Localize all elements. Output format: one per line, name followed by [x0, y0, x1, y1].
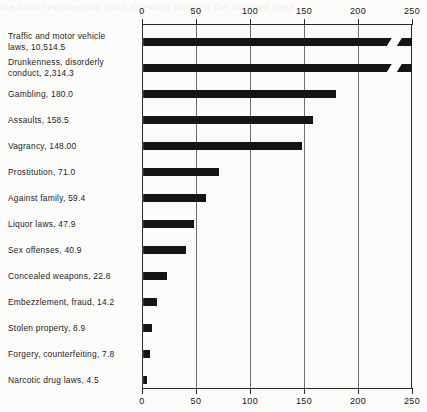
- gridline-100: [250, 24, 251, 388]
- category-label-6: Against family, 59.4: [8, 193, 141, 204]
- bar-1: [142, 64, 412, 72]
- category-label-5: Prostitution, 71.0: [8, 167, 141, 178]
- tick-label-bot-50: 50: [191, 396, 202, 406]
- tick-label-bot-250: 250: [404, 396, 420, 406]
- gridline-200: [358, 24, 359, 388]
- gridline-150: [304, 24, 305, 388]
- bar-2: [142, 90, 336, 98]
- category-label-3: Assaults, 158.5: [8, 115, 141, 126]
- tick-label-top-100: 100: [242, 6, 258, 16]
- tick-bot-250: [412, 389, 413, 394]
- category-label-1: Drunkenness, disorderly conduct, 2,314.3: [8, 57, 141, 78]
- bar-4: [142, 142, 302, 150]
- category-label-7: Liquor laws, 47.9: [8, 219, 141, 230]
- chart-figure: the faint reverse-side print showing thr…: [0, 0, 427, 412]
- bar-3: [142, 116, 313, 124]
- category-label-13: Narcotic drug laws, 4.5: [8, 375, 141, 386]
- gridline-50: [196, 24, 197, 388]
- bar-13: [142, 376, 147, 384]
- category-label-0: Traffic and motor vehicle laws, 10,514.5: [8, 31, 141, 52]
- bar-9: [142, 272, 167, 280]
- tick-bot-100: [250, 389, 251, 394]
- tick-label-top-50: 50: [191, 6, 202, 16]
- bar-7: [142, 220, 194, 228]
- tick-label-bot-150: 150: [296, 396, 312, 406]
- bar-11: [142, 324, 152, 332]
- bar-0: [142, 38, 412, 46]
- tick-label-top-150: 150: [296, 6, 312, 16]
- tick-label-top-250: 250: [404, 6, 420, 16]
- tick-label-bot-0: 0: [139, 396, 144, 406]
- axis-top: [142, 24, 413, 25]
- tick-top-150: [304, 19, 305, 24]
- tick-bot-150: [304, 389, 305, 394]
- category-label-10: Embezzlement, fraud, 14.2: [8, 297, 141, 308]
- category-label-9: Concealed weapons, 22.8: [8, 271, 141, 282]
- bar-6: [142, 194, 206, 202]
- tick-top-0: [142, 19, 143, 24]
- tick-top-100: [250, 19, 251, 24]
- category-label-8: Sex offenses, 40.9: [8, 245, 141, 256]
- tick-bot-50: [196, 389, 197, 394]
- category-label-column: Traffic and motor vehicle laws, 10,514.5…: [0, 0, 141, 412]
- tick-bot-0: [142, 389, 143, 394]
- category-label-2: Gambling, 180.0: [8, 89, 141, 100]
- tick-label-bot-200: 200: [350, 396, 366, 406]
- category-label-11: Stolen property, 8.9: [8, 323, 141, 334]
- category-label-4: Vagrancy, 148.00: [8, 141, 141, 152]
- bar-12: [142, 350, 150, 358]
- tick-top-250: [412, 19, 413, 24]
- tick-bot-200: [358, 389, 359, 394]
- bar-10: [142, 298, 157, 306]
- tick-label-top-0: 0: [139, 6, 144, 16]
- tick-label-top-200: 200: [350, 6, 366, 16]
- axis-bottom: [142, 388, 413, 389]
- bar-8: [142, 246, 186, 254]
- category-label-12: Forgery, counterfeiting, 7.8: [8, 349, 141, 360]
- tick-top-50: [196, 19, 197, 24]
- tick-top-200: [358, 19, 359, 24]
- tick-label-bot-100: 100: [242, 396, 258, 406]
- plot-area: [142, 24, 412, 388]
- bar-5: [142, 168, 219, 176]
